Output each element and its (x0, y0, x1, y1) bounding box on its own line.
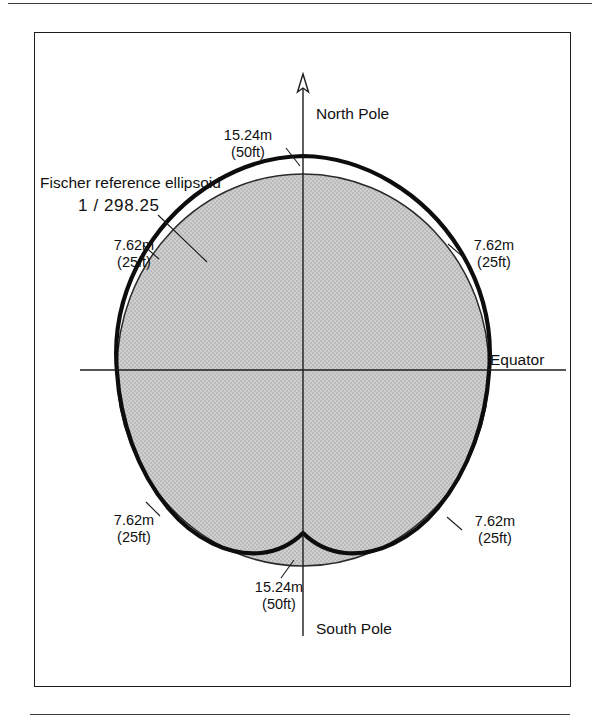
callout-south-imperial: (50ft) (262, 596, 296, 612)
south-pole-label: South Pole (316, 620, 392, 637)
geoid-diagram: North Pole South Pole Equator Fischer re… (0, 0, 600, 723)
callout-lower-left-metric: 7.62m (114, 512, 154, 528)
callout-south-metric: 15.24m (255, 579, 303, 595)
callout-north-imperial: (50ft) (231, 144, 265, 160)
callout-upper-right-metric: 7.62m (474, 237, 514, 253)
reference-ellipsoid-flattening: 1 / 298.25 (78, 196, 160, 215)
north-pole-label: North Pole (316, 105, 389, 122)
figure-page: North Pole South Pole Equator Fischer re… (0, 0, 600, 723)
callout-lower-right-metric: 7.62m (475, 513, 515, 529)
callout-lower-left-imperial: (25ft) (117, 529, 151, 545)
callout-lower-right-imperial: (25ft) (478, 530, 512, 546)
callout-upper-left-imperial: (25ft) (117, 254, 151, 270)
reference-ellipsoid-name: Fischer reference ellipsoid (40, 174, 221, 191)
equator-label: Equator (490, 351, 544, 368)
leader-lower-right-callout (447, 517, 462, 530)
callout-upper-right-imperial: (25ft) (477, 254, 511, 270)
callout-north-metric: 15.24m (224, 127, 272, 143)
callout-upper-left-metric: 7.62m (114, 237, 154, 253)
